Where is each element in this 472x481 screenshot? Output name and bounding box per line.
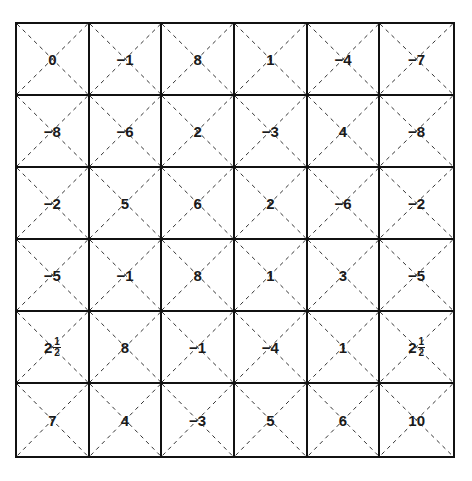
grid-cell: −5 [380,240,453,312]
cell-whole: −4 [334,51,351,68]
cell-value: 5 [121,195,129,212]
grid-cell: −6 [308,168,381,240]
cell-value: −4 [262,339,279,356]
grid-cell: −1 [162,312,235,384]
cell-whole: −1 [116,267,133,284]
cell-value: 4 [121,412,129,429]
grid-cell: 2 [235,168,308,240]
cell-whole: −5 [408,267,425,284]
grid-cell: −3 [235,96,308,168]
cell-value: −8 [408,123,425,140]
grid-cell: 6 [162,168,235,240]
cell-value: −1 [116,51,133,68]
fraction-numerator: 1 [418,337,426,348]
grid-cell: −3 [162,384,235,456]
cell-value: 1 [266,267,274,284]
cell-whole: 5 [121,195,129,212]
grid-cell: 212 [380,312,453,384]
cell-value: 10 [408,412,425,429]
cell-whole: 0 [48,51,56,68]
grid-cell: 5 [90,168,163,240]
grid-cell: 8 [162,240,235,312]
cell-value: −3 [189,412,206,429]
cell-whole: 1 [266,51,274,68]
cell-whole: −7 [408,51,425,68]
grid-cell: −6 [90,96,163,168]
cell-value: 0 [48,51,56,68]
cell-value: 8 [121,339,129,356]
cell-value: −2 [44,195,61,212]
cell-whole: 8 [193,267,201,284]
grid-cell: −2 [17,168,90,240]
cell-value: 212 [44,337,61,358]
cell-whole: −5 [44,267,61,284]
cell-value: −8 [44,123,61,140]
grid-cell: −1 [90,24,163,96]
cell-value: 8 [193,51,201,68]
grid-cell: −4 [235,312,308,384]
cell-whole: −6 [334,195,351,212]
cell-whole: −3 [262,123,279,140]
cell-whole: 2 [44,339,52,356]
grid-cell: −4 [308,24,381,96]
cell-value: −1 [189,339,206,356]
cell-whole: 4 [339,123,347,140]
cell-value: 3 [339,267,347,284]
grid-cell: 6 [308,384,381,456]
cell-whole: −1 [116,51,133,68]
cell-whole: 5 [266,412,274,429]
cell-value: 2 [266,195,274,212]
cell-whole: −4 [262,339,279,356]
cell-whole: 10 [408,412,425,429]
cell-value: −3 [262,123,279,140]
cell-whole: −8 [408,123,425,140]
grid-cell: 8 [162,24,235,96]
cell-whole: 3 [339,267,347,284]
cell-value: −5 [408,267,425,284]
cell-whole: 4 [121,412,129,429]
cell-value: −6 [334,195,351,212]
grid-cell: −8 [17,96,90,168]
cell-value: 7 [48,412,56,429]
cell-whole: −2 [408,195,425,212]
grid-cell: 212 [17,312,90,384]
cell-value: −4 [334,51,351,68]
cell-whole: 8 [121,339,129,356]
grid-cell: 4 [308,96,381,168]
grid-cell: −8 [380,96,453,168]
cell-value: 2 [193,123,201,140]
grid-cell: 5 [235,384,308,456]
grid-cell: 3 [308,240,381,312]
fraction-denominator: 2 [419,348,425,358]
cell-value: 5 [266,412,274,429]
grid-cell: 1 [235,24,308,96]
grid-cell: −2 [380,168,453,240]
cell-fraction: 12 [418,337,426,358]
cell-whole: 8 [193,51,201,68]
cell-value: 1 [266,51,274,68]
grid-cell: −7 [380,24,453,96]
cell-value: 8 [193,267,201,284]
grid-cell: −1 [90,240,163,312]
cell-whole: 2 [193,123,201,140]
cell-value: −2 [408,195,425,212]
cell-whole: −2 [44,195,61,212]
cell-value: 212 [408,337,425,358]
fraction-denominator: 2 [54,348,60,358]
cell-whole: −1 [189,339,206,356]
grid-cell: 0 [17,24,90,96]
cell-value: −5 [44,267,61,284]
grid-cell: 10 [380,384,453,456]
number-grid: 0−181−4−7−8−62−34−8−2562−6−2−5−1813−5212… [15,22,455,458]
cell-whole: 1 [339,339,347,356]
cell-whole: 6 [193,195,201,212]
grid-cell: 1 [235,240,308,312]
cell-value: 6 [193,195,201,212]
grid-cell: 1 [308,312,381,384]
cell-value: 4 [339,123,347,140]
cell-whole: −3 [189,412,206,429]
cell-value: 1 [339,339,347,356]
grid-cell: 2 [162,96,235,168]
cell-whole: −8 [44,123,61,140]
grid-cell: −5 [17,240,90,312]
